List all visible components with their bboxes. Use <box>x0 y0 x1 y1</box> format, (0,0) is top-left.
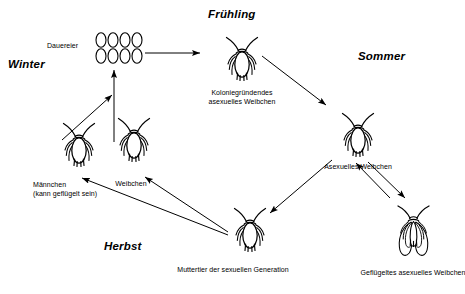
egg <box>108 33 118 47</box>
egg <box>120 49 130 63</box>
caption-line-1: Männchen <box>33 180 97 189</box>
caption-line-1: Weibchen <box>115 179 146 188</box>
caption-line-1: Muttertier der sexuellen Generation <box>177 265 288 274</box>
caption-weibchen: Weibchen <box>115 179 146 188</box>
caption-maennchen: Männchen (kann geflügelt sein) <box>33 180 97 198</box>
aphid-maennchen <box>64 124 95 167</box>
caption-line-1: Koloniegründendes <box>209 88 276 97</box>
egg <box>132 49 142 63</box>
aphid-gefluegeltes-asexuelles-weibchen <box>398 206 429 255</box>
aphid-asexuelles-weibchen <box>343 114 374 157</box>
season-label-herbst: Herbst <box>104 240 142 252</box>
flow-mother-to-female <box>145 177 228 232</box>
caption-asexuelles-weibchen: Asexuelles Weibchen <box>324 162 392 171</box>
dauereier-label: Dauereier <box>47 41 78 50</box>
egg <box>108 49 118 63</box>
caption-koloniegruendendes-weibchen: Koloniegründendes asexuelles Weibchen <box>209 88 276 106</box>
caption-line-2: asexuelles Weibchen <box>209 97 276 106</box>
caption-gefluegeltes-asexuelles-weibchen: Geflügeltes asexuelles Weibchen <box>361 268 465 277</box>
flow-mother-to-male <box>82 178 228 235</box>
aphid-muttertier-sexuelle-generation <box>235 209 266 252</box>
egg <box>132 33 142 47</box>
flow-male-to-eggs <box>62 95 112 140</box>
caption-line-2: (kann geflügelt sein) <box>33 189 97 198</box>
caption-line-1: Geflügeltes asexuelles Weibchen <box>361 268 465 277</box>
egg <box>96 33 106 47</box>
aphid-koloniegruendendes-weibchen <box>227 38 258 81</box>
flow-asexual-to-mother <box>270 160 332 213</box>
egg <box>120 33 130 47</box>
aphid-weibchen <box>119 119 150 162</box>
season-label-sommer: Sommer <box>358 50 405 62</box>
dauereier-group <box>96 33 142 63</box>
season-label-fruehling: Frühling <box>208 8 256 20</box>
caption-muttertier-sexuelle-generation: Muttertier der sexuellen Generation <box>177 265 288 274</box>
season-label-winter: Winter <box>8 58 45 70</box>
caption-line-1: Asexuelles Weibchen <box>324 162 392 171</box>
egg <box>96 49 106 63</box>
